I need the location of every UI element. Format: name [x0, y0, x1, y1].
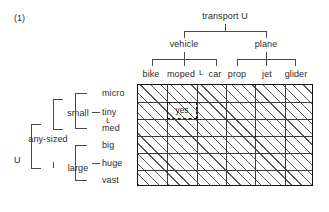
row-tree-node-any-sized: any-sized: [28, 134, 67, 144]
row-label-micro: micro: [102, 88, 125, 98]
large-leaf-arm-huge: [92, 163, 100, 164]
grid-row-line: [138, 102, 312, 103]
figure-canvas: (1) transport U vehicle plane bike moped…: [0, 0, 329, 212]
marked-cell-label: yes: [175, 105, 188, 115]
small-leaf-arm-med: [75, 128, 87, 129]
small-leaf-spine: [75, 93, 76, 128]
row-label-med: med: [102, 123, 120, 133]
row-label-big: big: [102, 140, 114, 150]
small-leaf-arm-micro: [75, 93, 87, 94]
row-tree-root-label: U: [14, 155, 21, 165]
column-tree-root-label: transport U: [202, 11, 248, 21]
column-label-prop: prop: [228, 69, 246, 79]
vehicle-stem: [184, 52, 185, 59]
marked-cell-yes[interactable]: yes: [167, 102, 196, 119]
large-bracket-spine: [53, 162, 54, 168]
column-tree-node-plane: plane: [255, 39, 278, 49]
grid-row-line: [138, 153, 312, 154]
vehicle-drop-car: [216, 59, 217, 66]
large-leaf-arm-big: [75, 145, 87, 146]
row-tree-node-small: small: [67, 108, 89, 118]
column-label-bike: bike: [143, 69, 160, 79]
small-bracket-top: [53, 99, 63, 100]
column-label-moped: moped: [167, 69, 195, 79]
row-tree-spine-top-arm: [31, 124, 41, 125]
column-tree-branch-stem-plane: [266, 31, 267, 38]
grid-row-line: [138, 170, 312, 171]
column-tree-root-stem: [225, 24, 226, 31]
small-bracket-bottom: [53, 129, 63, 130]
column-tree-node-vehicle: vehicle: [170, 39, 199, 49]
column-tree-root-bar: [184, 31, 266, 32]
plane-drop-jet: [266, 59, 267, 66]
plane-stem: [266, 52, 267, 59]
row-label-huge: huge: [102, 158, 122, 168]
figure-number: (1): [14, 13, 25, 23]
row-label-vast: vast: [102, 175, 119, 185]
vehicle-drop-bike: [152, 59, 153, 66]
column-label-glider: glider: [285, 69, 308, 79]
plane-drop-prop: [237, 59, 238, 66]
column-tree-branch-stem-vehicle: [184, 31, 185, 38]
cross-classification-grid: yes: [137, 84, 313, 186]
row-tree-spine: [31, 124, 32, 168]
row-tree-spine-bottom-arm: [31, 168, 41, 169]
column-label-car: car: [209, 69, 222, 79]
grid-row-line: [138, 119, 312, 120]
large-leaf-spine: [75, 145, 76, 180]
vehicle-drop-moped: [184, 59, 185, 66]
column-label-jet: jet: [262, 69, 272, 79]
row-tree-node-large: large: [68, 163, 89, 173]
small-leaf-arm-tiny: [92, 112, 100, 113]
plane-drop-glider: [295, 59, 296, 66]
large-leaf-arm-vast: [75, 180, 87, 181]
small-bracket-spine: [53, 99, 54, 129]
grid-row-line: [138, 136, 312, 137]
column-label-l-marker: L: [199, 68, 204, 78]
